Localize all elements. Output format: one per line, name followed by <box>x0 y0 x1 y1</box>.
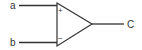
input-a-label: a <box>10 0 16 11</box>
minus-sign: − <box>58 34 63 43</box>
input-b-label: b <box>10 37 16 48</box>
output-c-label: C <box>127 19 134 30</box>
op-amp-diagram: a b + − C <box>0 0 142 50</box>
plus-sign: + <box>58 6 63 15</box>
